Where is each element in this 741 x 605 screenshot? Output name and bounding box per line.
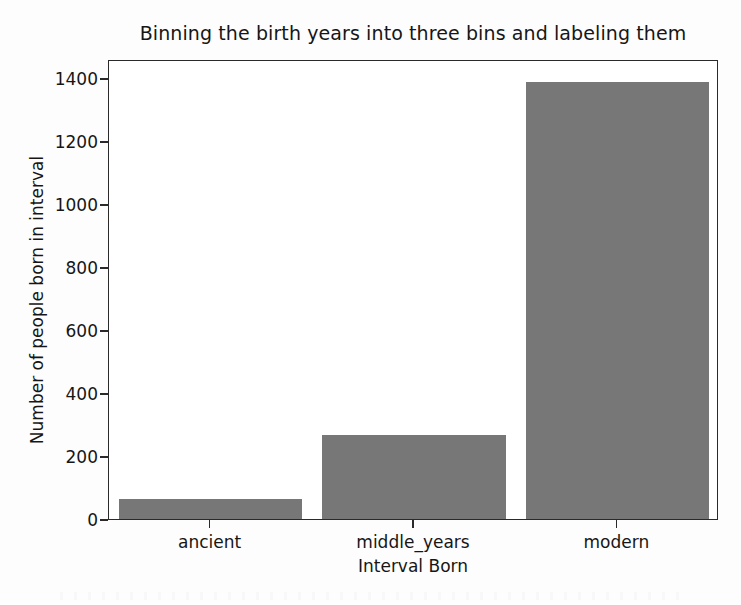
y-tick-mark [100, 393, 108, 395]
chart-title: Binning the birth years into three bins … [108, 22, 718, 44]
y-tick-mark [100, 456, 108, 458]
chart-page: Binning the birth years into three bins … [0, 0, 741, 605]
y-tick-label: 200 [40, 447, 98, 467]
x-tick-mark [209, 520, 211, 528]
bar-modern [526, 82, 709, 519]
y-tick-label: 600 [40, 321, 98, 341]
y-axis-label: Number of people born in interval [27, 150, 47, 450]
y-tick-mark [100, 267, 108, 269]
y-tick-label: 800 [40, 258, 98, 278]
x-tick-mark [616, 520, 618, 528]
bar-ancient [119, 499, 302, 519]
y-tick-mark [100, 204, 108, 206]
x-tick-label-ancient: ancient [110, 532, 310, 552]
y-tick-mark [100, 519, 108, 521]
y-tick-mark [100, 330, 108, 332]
x-tick-mark [412, 520, 414, 528]
y-tick-label: 1200 [40, 132, 98, 152]
x-tick-label-modern: modern [516, 532, 716, 552]
x-axis-label: Interval Born [108, 556, 718, 576]
y-tick-label: 0 [40, 510, 98, 530]
y-tick-mark [100, 141, 108, 143]
y-tick-label: 1400 [40, 69, 98, 89]
scan-artifact [60, 592, 680, 600]
bars-layer [109, 61, 717, 519]
y-tick-label: 1000 [40, 195, 98, 215]
y-tick-label: 400 [40, 384, 98, 404]
plot-area [108, 60, 718, 520]
x-tick-label-middle_years: middle_years [313, 532, 513, 552]
y-tick-mark [100, 78, 108, 80]
bar-middle_years [322, 435, 505, 519]
